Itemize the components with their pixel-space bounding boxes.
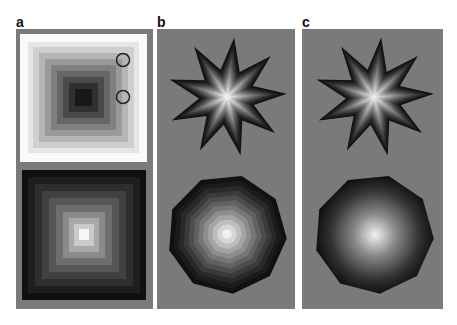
smooth-nonagon (316, 176, 434, 294)
light-center-staircase (22, 170, 146, 300)
panel-label-a: a (16, 15, 24, 29)
dark-center-staircase (28, 42, 139, 153)
panel-label-b: b (157, 15, 166, 29)
panel-c (302, 29, 443, 309)
panel-label-c: c (302, 15, 310, 29)
panel-c-graphic (302, 29, 443, 309)
smooth-star (317, 37, 434, 155)
panel-b-graphic (157, 29, 295, 309)
stepped-nonagon (169, 176, 287, 294)
panel-a-graphic (16, 29, 153, 309)
panel-a (16, 29, 153, 309)
panel-b (157, 29, 295, 309)
stepped-star (170, 37, 287, 155)
